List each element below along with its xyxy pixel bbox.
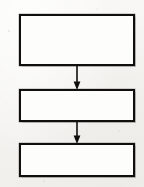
flow-box-top[interactable]	[19, 14, 135, 66]
arrow-middle-to-bottom	[73, 121, 81, 144]
flow-box-middle[interactable]	[19, 89, 135, 122]
arrow-down-icon	[73, 65, 81, 90]
arrow-top-to-middle	[73, 65, 81, 90]
flow-box-bottom[interactable]	[19, 143, 135, 177]
flow-box-bottom-label	[21, 145, 133, 175]
flow-box-middle-label	[21, 91, 133, 120]
arrow-down-icon	[73, 121, 81, 144]
flow-box-top-label	[21, 16, 133, 64]
flowchart-canvas	[0, 0, 144, 187]
